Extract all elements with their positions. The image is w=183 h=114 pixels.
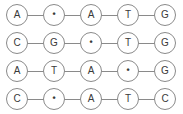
node-label: C bbox=[13, 38, 20, 48]
sequence-node[interactable]: T bbox=[117, 4, 139, 26]
sequence-alignment-diagram: A • A T G C G • T G A T A • bbox=[0, 0, 183, 114]
node-label: T bbox=[125, 38, 131, 48]
gap-dot-icon: • bbox=[126, 66, 129, 75]
node-label: G bbox=[161, 38, 169, 48]
edge-connector bbox=[64, 43, 81, 44]
sequence-node[interactable]: C bbox=[6, 32, 28, 54]
sequence-row: A T A • G bbox=[0, 58, 183, 86]
sequence-node[interactable]: C bbox=[154, 88, 176, 110]
edge-connector bbox=[64, 99, 81, 100]
edge-connector bbox=[101, 71, 118, 72]
sequence-node[interactable]: A bbox=[6, 4, 28, 26]
sequence-node[interactable]: G bbox=[154, 60, 176, 82]
sequence-row: C • A T C bbox=[0, 86, 183, 114]
node-grid: A • A T G C G • T G A T A • bbox=[0, 0, 183, 114]
edge-connector bbox=[138, 15, 155, 16]
node-label: A bbox=[88, 66, 95, 76]
edge-connector bbox=[101, 15, 118, 16]
sequence-node[interactable]: G bbox=[154, 32, 176, 54]
gap-dot-icon: • bbox=[52, 94, 55, 103]
edge-connector bbox=[138, 43, 155, 44]
node-label: T bbox=[125, 10, 131, 20]
edge-connector bbox=[101, 99, 118, 100]
edge-connector bbox=[27, 43, 44, 44]
sequence-row: A • A T G bbox=[0, 2, 183, 30]
node-label: A bbox=[88, 10, 95, 20]
node-label: A bbox=[14, 10, 21, 20]
sequence-node[interactable]: A bbox=[80, 88, 102, 110]
edge-connector bbox=[138, 71, 155, 72]
sequence-node[interactable]: A bbox=[80, 60, 102, 82]
edge-connector bbox=[27, 71, 44, 72]
sequence-node[interactable]: C bbox=[6, 88, 28, 110]
edge-connector bbox=[64, 71, 81, 72]
node-label: G bbox=[50, 38, 58, 48]
edge-connector bbox=[27, 15, 44, 16]
edge-connector bbox=[101, 43, 118, 44]
gap-dot-icon: • bbox=[89, 38, 92, 47]
sequence-node[interactable]: A bbox=[80, 4, 102, 26]
node-label: A bbox=[88, 94, 95, 104]
node-label: G bbox=[161, 10, 169, 20]
sequence-node-gap[interactable]: • bbox=[117, 60, 139, 82]
sequence-node[interactable]: T bbox=[43, 60, 65, 82]
edge-connector bbox=[138, 99, 155, 100]
edge-connector bbox=[64, 15, 81, 16]
node-label: T bbox=[125, 94, 131, 104]
sequence-row: C G • T G bbox=[0, 30, 183, 58]
sequence-node-gap[interactable]: • bbox=[43, 4, 65, 26]
sequence-node[interactable]: G bbox=[43, 32, 65, 54]
sequence-node[interactable]: T bbox=[117, 32, 139, 54]
edge-connector bbox=[27, 99, 44, 100]
sequence-node-gap[interactable]: • bbox=[80, 32, 102, 54]
node-label: A bbox=[14, 66, 21, 76]
node-label: T bbox=[51, 66, 57, 76]
sequence-node-gap[interactable]: • bbox=[43, 88, 65, 110]
sequence-node[interactable]: G bbox=[154, 4, 176, 26]
sequence-node[interactable]: T bbox=[117, 88, 139, 110]
sequence-node[interactable]: A bbox=[6, 60, 28, 82]
node-label: C bbox=[161, 94, 168, 104]
node-label: C bbox=[13, 94, 20, 104]
gap-dot-icon: • bbox=[52, 10, 55, 19]
node-label: G bbox=[161, 66, 169, 76]
